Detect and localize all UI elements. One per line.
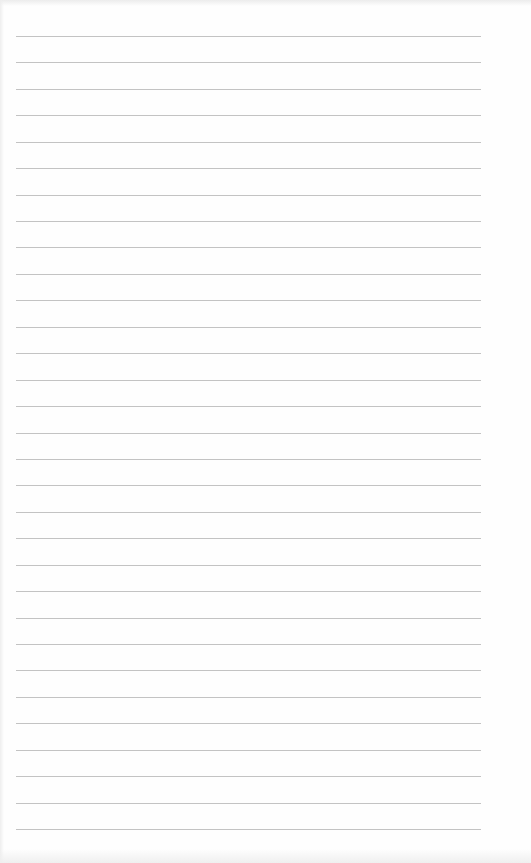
- ruled-line: [16, 697, 481, 698]
- lined-paper-page: [0, 0, 531, 863]
- ruled-line: [16, 353, 481, 354]
- ruled-line: [16, 168, 481, 169]
- ruled-line: [16, 247, 481, 248]
- ruled-line: [16, 406, 481, 407]
- ruled-line: [16, 803, 481, 804]
- ruled-line: [16, 274, 481, 275]
- ruled-line: [16, 300, 481, 301]
- ruled-line: [16, 565, 481, 566]
- ruled-line: [16, 459, 481, 460]
- scan-left-edge: [0, 0, 4, 863]
- ruled-line: [16, 36, 481, 37]
- ruled-line: [16, 670, 481, 671]
- ruled-line: [16, 750, 481, 751]
- ruled-line: [16, 327, 481, 328]
- ruled-line: [16, 776, 481, 777]
- scan-top-edge: [0, 0, 531, 6]
- ruled-line: [16, 618, 481, 619]
- ruled-line: [16, 829, 481, 830]
- ruled-line: [16, 644, 481, 645]
- scan-bottom-edge: [0, 849, 531, 863]
- ruled-line: [16, 512, 481, 513]
- ruled-line: [16, 89, 481, 90]
- ruled-line: [16, 142, 481, 143]
- ruled-line: [16, 723, 481, 724]
- ruled-line: [16, 538, 481, 539]
- ruled-line: [16, 485, 481, 486]
- ruled-line: [16, 591, 481, 592]
- ruled-line: [16, 195, 481, 196]
- ruled-line: [16, 380, 481, 381]
- ruled-line: [16, 433, 481, 434]
- ruled-line: [16, 221, 481, 222]
- ruled-line: [16, 115, 481, 116]
- ruled-line: [16, 62, 481, 63]
